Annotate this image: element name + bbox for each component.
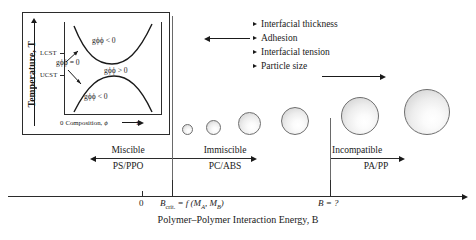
region-example-incompatible: PA/PP <box>336 160 416 172</box>
diagram-root: Temperature, T LCST UCST gϕϕ < 0 gϕϕ = 0… <box>0 0 476 240</box>
list-item: Interfacial tension <box>253 45 403 59</box>
inset-y-axis-label-text: Temperature, T <box>27 41 37 107</box>
particle-sphere <box>341 97 379 135</box>
property-label: Adhesion <box>261 33 297 43</box>
region-name: Incompatible <box>332 144 424 156</box>
inset-x-axis-label: 0 Composition, ϕ 1 <box>60 116 168 128</box>
region-example-text: PC/ABS <box>175 160 275 172</box>
region-example-text: PA/PP <box>336 160 416 172</box>
main-axis-arrow-head <box>462 194 468 200</box>
region-rule-immiscible <box>173 158 251 159</box>
list-item: Adhesion <box>253 31 403 45</box>
inset-y-axis-label: Temperature, T <box>24 20 40 128</box>
decreasing-arrow-line <box>210 38 250 39</box>
increasing-arrow-head <box>380 74 386 80</box>
particle-sphere <box>206 120 221 135</box>
region-example-immiscible: PC/ABS <box>175 160 275 172</box>
particle-sphere <box>238 112 261 135</box>
axis-tick-label-b-unknown: B = ? <box>318 198 339 208</box>
region-example-text: PS/PPO <box>86 160 170 172</box>
property-list: Interfacial thickness Adhesion Interfaci… <box>253 17 403 73</box>
b-critical-subscript: crit. <box>166 203 176 210</box>
inset-tick-label-lcst: LCST <box>40 49 57 56</box>
bullet-triangle-icon <box>253 22 257 26</box>
region-name: Miscible <box>86 144 170 156</box>
main-axis-line <box>8 196 463 197</box>
particle-sphere <box>281 107 309 135</box>
region-rule-miscible <box>96 158 172 159</box>
list-item: Particle size <box>253 59 403 73</box>
property-label: Interfacial tension <box>261 47 330 57</box>
bullet-triangle-icon <box>253 64 257 68</box>
inset-y-axis-line <box>34 22 35 126</box>
axis-tick-label-b-critical: Bcrit. = f (MA, MB) <box>160 198 224 210</box>
region-example-miscible: PS/PPO <box>86 160 170 172</box>
particle-sphere <box>182 124 193 135</box>
particle-sphere <box>404 89 450 135</box>
region-name: Immiscible <box>175 144 275 156</box>
bullet-triangle-icon <box>253 36 257 40</box>
increasing-arrow-line <box>322 76 380 77</box>
inset-tick-label-ucst: UCST <box>40 71 57 78</box>
property-label: Particle size <box>261 61 307 71</box>
inset-x-axis-symbol: ϕ <box>104 119 108 126</box>
region-label-incompatible: Incompatible <box>332 144 424 156</box>
axis-caption: Polymer–Polymer Interaction Energy, B <box>0 214 476 225</box>
divider-miscible-immiscible <box>172 16 173 196</box>
bullet-triangle-icon <box>253 50 257 54</box>
axis-tick-zero <box>142 191 143 196</box>
b-critical-rest2: , M <box>205 198 217 208</box>
b-critical-rest: = f (M <box>175 198 201 208</box>
region-rule-incompatible <box>331 158 399 159</box>
b-critical-rest3: ) <box>221 198 224 208</box>
axis-tick-b-unknown <box>330 180 331 196</box>
annotation-g-zero: gϕϕ = 0 <box>56 58 80 67</box>
axis-tick-label-zero: 0 <box>139 198 144 208</box>
inset-x-axis-label-text: Composition, <box>65 119 102 126</box>
inset-x-axis-arrow-line <box>122 122 138 123</box>
inset-x-min: 0 <box>60 119 63 126</box>
inset-tick-mark-lcst <box>60 53 65 54</box>
annotation-g-upper-negative: gϕϕ < 0 <box>92 36 116 45</box>
annotation-g-lower-negative: gϕϕ < 0 <box>84 92 108 101</box>
inset-tick-mark-ucst <box>60 75 65 76</box>
annotation-g-positive: gϕϕ > 0 <box>104 66 128 75</box>
decreasing-arrow-head <box>204 36 210 42</box>
list-item: Interfacial thickness <box>253 17 403 31</box>
region-label-miscible: Miscible <box>86 144 170 156</box>
property-label: Interfacial thickness <box>261 19 338 29</box>
region-label-immiscible: Immiscible <box>175 144 275 156</box>
inset-x-axis-arrow-head <box>138 120 144 126</box>
axis-tick-b-critical <box>172 180 173 196</box>
